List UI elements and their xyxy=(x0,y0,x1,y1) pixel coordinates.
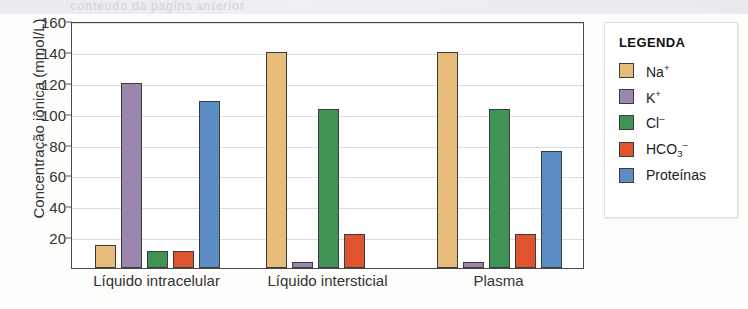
legend-swatch-icon xyxy=(619,142,634,157)
legend-item-k: K+ xyxy=(619,88,727,106)
legend-swatch-icon xyxy=(619,89,634,104)
bar-group xyxy=(72,23,243,268)
legend-label: HCO3– xyxy=(646,139,688,159)
plot-area xyxy=(71,22,584,269)
y-tick-label: 60 xyxy=(20,168,66,185)
bar-cl-0 xyxy=(147,251,168,268)
bar-cl-1 xyxy=(318,109,339,268)
x-tick-label: Líquido intracelular xyxy=(93,272,220,289)
y-tick-label: 80 xyxy=(20,137,66,154)
legend-label: K+ xyxy=(646,88,661,106)
y-tick-label: 140 xyxy=(20,44,66,61)
y-tick-label: 120 xyxy=(20,75,66,92)
bar-hco3-1 xyxy=(344,234,365,268)
legend-item-hco3: HCO3– xyxy=(619,139,727,159)
legend-label: Proteínas xyxy=(646,167,706,183)
bar-k-1 xyxy=(292,262,313,268)
y-tick-label: 20 xyxy=(20,230,66,247)
legend-swatch-icon xyxy=(619,63,634,78)
bars-layer xyxy=(72,23,583,268)
x-tick-label: Líquido intersticial xyxy=(267,272,387,289)
bar-hco3-2 xyxy=(515,234,536,268)
bar-k-0 xyxy=(121,83,142,268)
bar-hco3-0 xyxy=(173,251,194,268)
legend-item-proteinas: Proteínas xyxy=(619,167,727,183)
legend-title: LEGENDA xyxy=(619,35,727,50)
y-tick-label: 40 xyxy=(20,199,66,216)
legend-swatch-icon xyxy=(619,168,634,183)
bleed-through-text: conteudo da pagina anterior xyxy=(70,0,245,13)
y-tick-label: 160 xyxy=(20,14,66,31)
legend: LEGENDA Na+K+Cl–HCO3–Proteínas xyxy=(604,22,738,218)
bar-na-0 xyxy=(95,245,116,268)
bar-k-2 xyxy=(463,262,484,268)
bar-na-2 xyxy=(437,52,458,268)
bar-proteinas-0 xyxy=(199,101,220,268)
scan-bleed-through-band: conteudo da pagina anterior xyxy=(0,0,748,14)
y-tick-label: 100 xyxy=(20,106,66,123)
bar-group xyxy=(243,23,414,268)
x-axis-tick-labels: Líquido intracelularLíquido intersticial… xyxy=(71,272,584,302)
y-axis-tick-labels: 20406080100120140160 xyxy=(18,14,66,269)
legend-items: Na+K+Cl–HCO3–Proteínas xyxy=(619,62,727,183)
x-tick-label: Plasma xyxy=(473,272,523,289)
legend-label: Cl– xyxy=(646,113,665,131)
legend-item-na: Na+ xyxy=(619,62,727,80)
bar-proteinas-2 xyxy=(541,151,562,268)
legend-swatch-icon xyxy=(619,115,634,130)
bar-group xyxy=(414,23,585,268)
legend-item-cl: Cl– xyxy=(619,113,727,131)
legend-label: Na+ xyxy=(646,62,669,80)
bar-na-1 xyxy=(266,52,287,268)
bar-cl-2 xyxy=(489,109,510,268)
bar-chart: Concentração iônica (mmol/L) 20406080100… xyxy=(0,14,600,309)
